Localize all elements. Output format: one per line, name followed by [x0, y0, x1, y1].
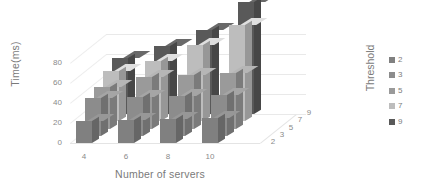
y-tick-label: 0	[44, 138, 62, 147]
bar-front-face	[118, 120, 134, 143]
bar-side-face	[92, 117, 99, 143]
legend-swatch-icon	[389, 88, 395, 94]
bar-side-face	[134, 116, 141, 143]
legend-swatch-icon	[389, 103, 395, 109]
y-tick-label: 80	[44, 58, 62, 67]
plot-area: 0204060804681023579	[0, 0, 340, 160]
bar-front-face	[160, 119, 176, 143]
x-axis-title: Number of servers	[0, 168, 320, 180]
legend-title: Threshold	[364, 31, 376, 105]
legend-swatch-icon	[389, 72, 395, 78]
bar-front-face	[202, 118, 218, 143]
legend-swatch-icon	[389, 57, 395, 63]
legend: 23579	[389, 52, 423, 130]
x-tick-label: 8	[156, 152, 180, 161]
z-tick-label: 9	[302, 108, 316, 117]
bar-6-2	[118, 120, 134, 143]
bar-side-face	[236, 68, 243, 128]
y-tick-label: 40	[44, 98, 62, 107]
legend-item-2[interactable]: 2	[389, 52, 423, 68]
bar-side-face	[152, 72, 159, 128]
legend-item-label: 2	[398, 56, 402, 64]
bar-side-face	[119, 67, 126, 121]
bar-4-2	[76, 121, 92, 143]
bar-side-face	[194, 70, 201, 128]
x-tick-label: 6	[114, 152, 138, 161]
floor-front-edge	[70, 143, 260, 144]
legend-item-label: 3	[398, 71, 402, 79]
chart-canvas: 0204060804681023579 Time(ms) Number of s…	[0, 0, 423, 192]
legend-item-label: 5	[398, 87, 402, 95]
bar-side-face	[203, 41, 210, 121]
bar-side-face	[176, 115, 183, 143]
legend-item-label: 9	[398, 118, 402, 126]
legend-swatch-icon	[389, 119, 395, 125]
legend-item-7[interactable]: 7	[389, 99, 423, 115]
bar-10-2	[202, 118, 218, 143]
bar-side-face	[218, 114, 225, 143]
bar-8-2	[160, 119, 176, 143]
legend-item-9[interactable]: 9	[389, 114, 423, 130]
legend-item-5[interactable]: 5	[389, 83, 423, 99]
y-tick-label: 60	[44, 78, 62, 87]
y-tick-label: 20	[44, 118, 62, 127]
x-tick-label: 10	[198, 152, 222, 161]
bar-front-face	[76, 121, 92, 143]
legend-item-3[interactable]: 3	[389, 68, 423, 84]
bar-side-face	[110, 82, 117, 128]
y-axis-title: Time(ms)	[9, 27, 21, 101]
x-tick-label: 4	[72, 152, 96, 161]
legend-item-label: 7	[398, 102, 402, 110]
